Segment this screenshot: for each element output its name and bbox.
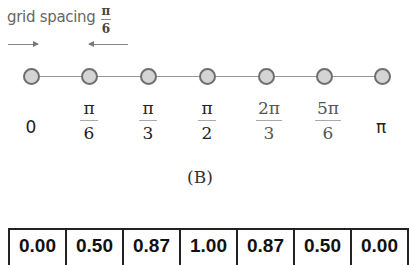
fraction-bar (101, 19, 111, 20)
arrow-right-icon (8, 44, 38, 45)
fraction-numerator: π (102, 5, 111, 17)
table-cell: 0.87 (124, 230, 181, 265)
fraction-denominator: 3 (143, 125, 154, 142)
values-table: 0.00 0.50 0.87 1.00 0.87 0.50 0.00 (8, 228, 409, 265)
table-cell: 0.00 (352, 230, 409, 265)
fraction-denominator: 6 (84, 125, 95, 142)
table-cell: 0.50 (295, 230, 352, 265)
table-cell: 0.50 (67, 230, 124, 265)
grid-label-pi-2: π 2 (198, 100, 216, 142)
fraction-bar (198, 120, 216, 121)
fraction-denominator: 2 (202, 125, 213, 142)
fraction-numerator: π (201, 100, 212, 117)
grid-node (199, 68, 216, 85)
fraction-numerator: π (83, 100, 94, 117)
fraction-bar (139, 120, 157, 121)
fraction-bar (315, 120, 341, 121)
fraction-denominator: 6 (102, 23, 110, 35)
table-cell: 0.87 (238, 230, 295, 265)
grid-node (374, 68, 391, 85)
grid-node (316, 68, 333, 85)
grid-node (140, 68, 157, 85)
grid-node (258, 68, 275, 85)
grid-label-0: 0 (26, 117, 37, 137)
arrow-left-icon (89, 44, 128, 45)
figure-caption: (B) (187, 167, 213, 187)
grid-spacing-fraction: π 6 (101, 5, 111, 35)
grid-node (81, 68, 98, 85)
fraction-numerator: 2π (258, 100, 280, 117)
fraction-bar (80, 120, 98, 121)
fraction-numerator: 5π (317, 100, 339, 117)
grid-label-pi: π (376, 117, 386, 137)
grid-label-2pi-3: 2π 3 (256, 100, 282, 142)
fraction-denominator: 6 (323, 125, 334, 142)
grid-label-pi-6: π 6 (80, 100, 98, 142)
grid-spacing-label: grid spacing (7, 8, 96, 26)
fraction-bar (256, 120, 282, 121)
fraction-denominator: 3 (264, 125, 275, 142)
table-cell: 1.00 (181, 230, 238, 265)
fraction-numerator: π (142, 100, 153, 117)
grid-label-5pi-6: 5π 6 (315, 100, 341, 142)
table-cell: 0.00 (10, 230, 67, 265)
grid-label-pi-3: π 3 (139, 100, 157, 142)
grid-node (23, 68, 40, 85)
